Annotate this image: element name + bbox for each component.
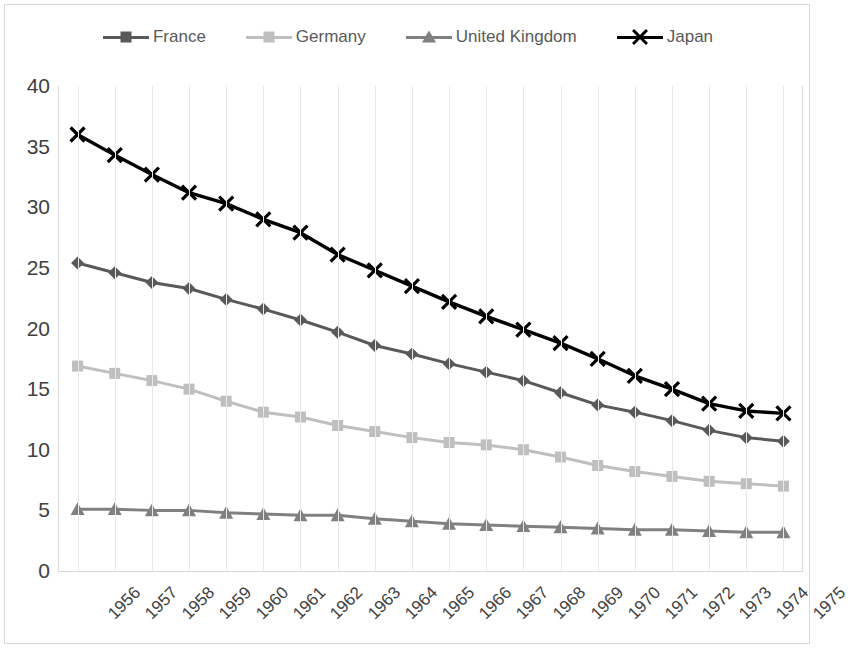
series-united-kingdom [71, 502, 791, 538]
series-germany [72, 361, 789, 492]
gridline-1966 [449, 86, 450, 571]
gridline-1958 [152, 86, 153, 571]
gridline-1957 [115, 86, 116, 571]
gridline-1971 [635, 86, 636, 571]
x-tick-label: 1958 [178, 583, 219, 624]
gridline-1974 [746, 86, 747, 571]
series-japan [71, 128, 791, 421]
y-tick-label: 40 [2, 74, 50, 98]
x-tick-label: 1963 [364, 583, 405, 624]
x-tick-label: 1961 [289, 583, 330, 624]
series-line [78, 509, 784, 532]
gridline-1965 [412, 86, 413, 571]
x-tick-label: 1973 [735, 583, 776, 624]
x-tick-label: 1971 [661, 583, 702, 624]
x-tick-label: 1969 [587, 583, 628, 624]
plot-area [58, 86, 803, 572]
gridline-1960 [226, 86, 227, 571]
gridline-1973 [709, 86, 710, 571]
series-line [78, 263, 784, 441]
x-tick-label: 1956 [104, 583, 145, 624]
gridline-1956 [78, 86, 79, 571]
gridline-1961 [263, 86, 264, 571]
x-tick-label: 1968 [549, 583, 590, 624]
series-france [71, 257, 790, 448]
x-tick-label: 1972 [698, 583, 739, 624]
series-layer [59, 86, 802, 571]
x-tick-label: 1974 [772, 583, 813, 624]
gridline-1975 [783, 86, 784, 571]
y-tick-label: 35 [2, 135, 50, 159]
x-tick-label: 1967 [512, 583, 553, 624]
x-tick-label: 1966 [475, 583, 516, 624]
gridline-1970 [598, 86, 599, 571]
x-tick-label: 1964 [401, 583, 442, 624]
y-tick-label: 5 [2, 498, 50, 522]
series-line [78, 135, 784, 414]
x-tick-label: 1959 [215, 583, 256, 624]
x-tick-label: 1962 [327, 583, 368, 624]
plot-wrapper: 4035302520151050 19561957195819591960196… [5, 5, 811, 645]
x-axis: 1956195719581959196019611962196319641965… [58, 577, 801, 647]
gridline-1963 [338, 86, 339, 571]
gridline-1972 [672, 86, 673, 571]
gridline-1968 [523, 86, 524, 571]
gridline-1962 [300, 86, 301, 571]
y-tick-label: 15 [2, 377, 50, 401]
chart-frame: FranceGermanyUnited KingdomJapan 4035302… [4, 4, 810, 644]
y-tick-label: 20 [2, 317, 50, 341]
gridline-1969 [561, 86, 562, 571]
y-tick-label: 30 [2, 195, 50, 219]
y-axis: 4035302520151050 [5, 86, 50, 571]
x-tick-label: 1960 [252, 583, 293, 624]
y-tick-label: 10 [2, 438, 50, 462]
x-tick-label: 1965 [438, 583, 479, 624]
gridline-1959 [189, 86, 190, 571]
y-tick-label: 25 [2, 256, 50, 280]
gridline-1964 [375, 86, 376, 571]
x-tick-label: 1975 [810, 583, 850, 624]
y-tick-label: 0 [2, 559, 50, 583]
x-tick-label: 1970 [624, 583, 665, 624]
gridline-1967 [486, 86, 487, 571]
x-tick-label: 1957 [141, 583, 182, 624]
